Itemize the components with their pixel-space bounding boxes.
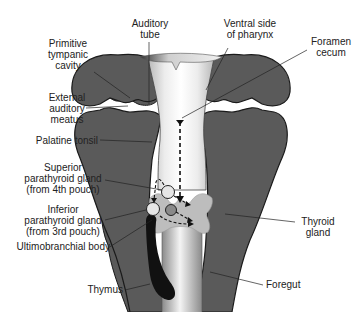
- label-foregut: Foregut: [266, 279, 316, 290]
- label-inferior-parathyroid-gland: Inferior parathyroid gland (from 3rd pou…: [18, 204, 108, 237]
- label-ventral-side-of-pharynx: Ventral side of pharynx: [215, 18, 285, 40]
- ultimobranchial-body: [166, 205, 177, 216]
- label-foramen-cecum: Foramen cecum: [305, 36, 357, 58]
- label-palatine-tonsil: Palatine tonsil: [18, 135, 98, 146]
- label-primitive-tympanic-cavity: Primitive tympanic cavity: [38, 38, 98, 71]
- label-ultimobranchial-body: Ultimobranchial body: [4, 241, 110, 252]
- label-thyroid-gland: Thyroid gland: [293, 216, 343, 238]
- label-thymus: Thymus: [85, 284, 123, 295]
- superior-parathyroid-gland: [162, 186, 175, 199]
- label-auditory-tube: Auditory tube: [125, 18, 175, 40]
- label-superior-parathyroid-gland: Superior parathyroid gland (from 4th pou…: [18, 162, 108, 195]
- label-external-auditory-meatus: External auditory meatus: [42, 92, 92, 125]
- inferior-parathyroid-gland: [147, 203, 160, 216]
